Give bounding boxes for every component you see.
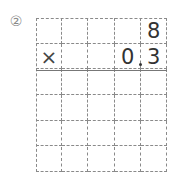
multiplication-line xyxy=(36,70,167,71)
digit: 8 xyxy=(141,18,167,44)
grid-cell[interactable] xyxy=(115,95,141,121)
grid-cell[interactable] xyxy=(62,121,88,147)
grid-cell[interactable] xyxy=(36,147,62,173)
digit xyxy=(36,18,62,44)
digit: 3 xyxy=(141,44,167,70)
digit xyxy=(62,18,88,44)
grid-cell[interactable] xyxy=(88,69,114,95)
digit xyxy=(115,18,141,44)
grid-cell[interactable] xyxy=(141,69,167,95)
grid-cell[interactable] xyxy=(36,95,62,121)
grid-cell[interactable] xyxy=(88,121,114,147)
grid-cell[interactable] xyxy=(141,147,167,173)
grid-cell[interactable] xyxy=(62,95,88,121)
grid-cell[interactable] xyxy=(141,121,167,147)
calculation-grid: 8×03 xyxy=(36,18,167,172)
problem-number: ② xyxy=(8,13,24,29)
times-sign: × xyxy=(36,44,62,70)
grid-cell[interactable] xyxy=(141,95,167,121)
grid-cell[interactable] xyxy=(62,69,88,95)
grid-cell[interactable] xyxy=(62,147,88,173)
grid-cell[interactable] xyxy=(88,147,114,173)
digit xyxy=(88,18,114,44)
grid-cell[interactable] xyxy=(115,69,141,95)
digit xyxy=(62,44,88,70)
digit xyxy=(88,44,114,70)
grid-cell[interactable] xyxy=(36,69,62,95)
grid-cell[interactable] xyxy=(88,95,114,121)
grid-cell[interactable] xyxy=(115,121,141,147)
grid-cell[interactable] xyxy=(115,147,141,173)
grid-cell[interactable] xyxy=(36,121,62,147)
digit: 0 xyxy=(115,44,141,70)
